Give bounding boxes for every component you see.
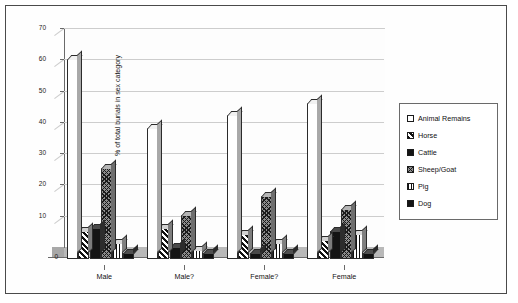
y-tick-mark: [60, 184, 64, 185]
solid-black-icon: [407, 149, 414, 156]
x-tick-mark: [264, 265, 265, 270]
legend-item[interactable]: Cattle: [407, 145, 437, 159]
y-tick-label: 40: [12, 118, 46, 125]
bar: [227, 115, 238, 259]
legend-item[interactable]: Animal Remains: [407, 111, 470, 125]
checkered-icon: [407, 166, 414, 173]
y-tick-mark: [60, 153, 64, 154]
bar-group: Male: [67, 40, 141, 259]
bar-side-face: [191, 207, 196, 253]
plot-area: 010203040506070 MaleMale?Female?Female %…: [52, 28, 384, 269]
x-tick-label: Male: [67, 272, 141, 281]
legend-label: Horse: [418, 131, 437, 140]
bar-side-face: [111, 160, 116, 253]
bar: [192, 250, 203, 259]
gridline-riser: [54, 153, 64, 161]
diagonal-hatch-icon: [407, 132, 414, 139]
bar: [250, 253, 261, 259]
legend-label: Pig: [418, 182, 428, 191]
y-tick-mark: [48, 257, 52, 258]
legend-label: Cattle: [418, 148, 437, 157]
legend-item[interactable]: Horse: [407, 128, 437, 142]
bar-side-face: [168, 219, 173, 253]
bar-side-face: [271, 188, 276, 253]
bar-side-face: [88, 222, 93, 253]
bar: [123, 253, 134, 259]
y-tick-mark: [60, 122, 64, 123]
bar: [203, 253, 214, 259]
gridline: [64, 28, 384, 29]
bar-group: Male?: [147, 40, 221, 259]
y-tick-mark: [60, 216, 64, 217]
y-tick-label: 10: [12, 212, 46, 219]
gridline-riser: [54, 122, 64, 130]
gridline-riser: [54, 28, 64, 36]
gridline-riser: [54, 216, 64, 224]
bar-side-face: [362, 225, 367, 253]
bar-side-face: [237, 107, 242, 253]
y-tick-mark: [60, 91, 64, 92]
y-tick-label: 0: [24, 253, 58, 260]
legend-label: Dog: [418, 199, 431, 208]
bar: [363, 253, 374, 259]
bar: [283, 253, 294, 259]
bar: [181, 215, 192, 259]
legend-item[interactable]: Pig: [407, 179, 428, 193]
gridline-riser: [54, 185, 64, 193]
vertical-stripe-icon: [407, 183, 414, 190]
bar: [147, 128, 158, 259]
bar-side-face: [77, 50, 82, 253]
bar-group: Female?: [227, 40, 301, 259]
y-axis-label: % of total burials in sex category: [114, 31, 121, 181]
bar-side-face: [317, 94, 322, 253]
x-tick-mark: [344, 265, 345, 270]
x-tick-mark: [104, 265, 105, 270]
y-tick-label: 70: [12, 24, 46, 31]
bar: [307, 103, 318, 259]
blank-icon: [407, 115, 414, 122]
x-tick-label: Female?: [227, 272, 301, 281]
bar-group: Female: [307, 40, 381, 259]
x-tick-label: Female: [307, 272, 381, 281]
chart-legend: Animal RemainsHorseCattleSheep/GoatPigDo…: [399, 103, 498, 220]
legend-label: Animal Remains: [418, 114, 470, 123]
x-tick-label: Male?: [147, 272, 221, 281]
bar-side-face: [100, 219, 105, 253]
solid-black-icon: [407, 200, 414, 207]
gridline-riser: [54, 91, 64, 99]
y-tick-mark: [60, 59, 64, 60]
bar-side-face: [351, 200, 356, 253]
bar-side-face: [340, 222, 345, 253]
y-tick-label: 50: [12, 87, 46, 94]
bar-side-face: [157, 119, 162, 253]
chart-frame: 010203040506070 MaleMale?Female?Female %…: [5, 5, 507, 294]
gridline-riser: [54, 59, 64, 67]
x-tick-mark: [184, 265, 185, 270]
y-tick-label: 20: [12, 180, 46, 187]
bar: [67, 59, 78, 259]
chart-screenshot: 010203040506070 MaleMale?Female?Female %…: [0, 0, 518, 303]
y-tick-label: 30: [12, 149, 46, 156]
legend-item[interactable]: Sheep/Goat: [407, 162, 456, 176]
legend-label: Sheep/Goat: [418, 165, 456, 174]
y-tick-mark: [60, 28, 64, 29]
legend-item[interactable]: Dog: [407, 196, 431, 210]
y-tick-label: 60: [12, 55, 46, 62]
